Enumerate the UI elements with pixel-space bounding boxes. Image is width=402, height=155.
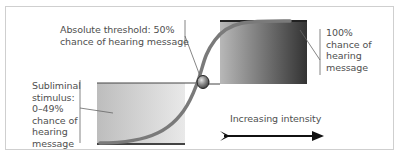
full-hearing-label: 100% chance of hearing message (326, 27, 386, 73)
intensity-label: Increasing intensity (230, 113, 321, 125)
full-hearing-region (200, 21, 307, 84)
subliminal-label: Subliminal stimulus: 0–49% chance of hea… (32, 80, 87, 149)
threshold-label: Absolute threshold: 50% chance of hearin… (60, 24, 190, 47)
threshold-point-icon (197, 76, 209, 89)
arrow-right-icon (220, 131, 324, 141)
